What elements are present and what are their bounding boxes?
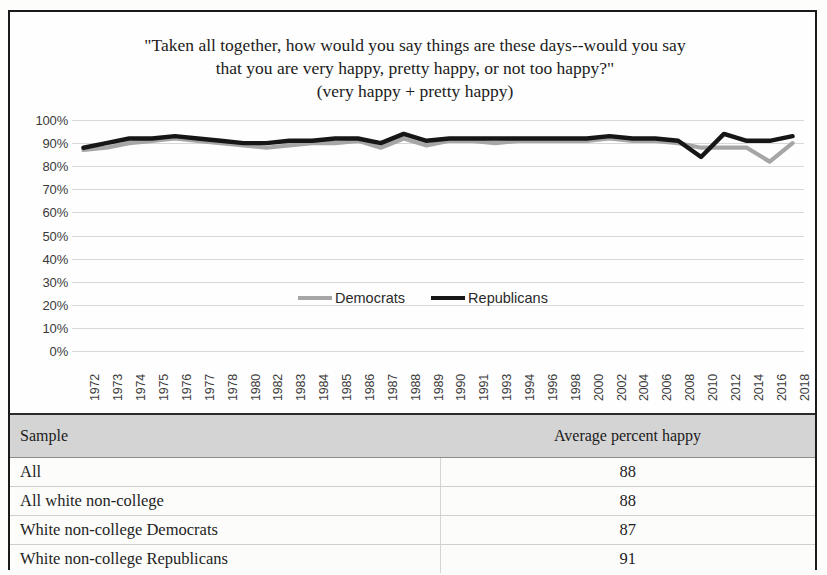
chart-title-line-3: (very happy + pretty happy) [70,80,760,103]
x-axis-tick-1993: 1993 [500,374,514,401]
y-axis-tick-10%: 10% [14,320,68,335]
table-header-row: Sample Average percent happy [10,414,815,458]
x-axis-tick-1983: 1983 [294,374,308,401]
gridline [72,351,804,352]
y-axis-tick-0%: 0% [14,344,68,359]
table-head: Sample Average percent happy [10,414,815,458]
x-axis-tick-1974: 1974 [134,374,148,401]
chart-title-line-1: "Taken all together, how would you say t… [70,34,760,57]
x-axis-tick-2010: 2010 [706,374,720,401]
content-frame: "Taken all together, how would you say t… [8,10,817,570]
legend-item-republicans: Republicans [431,290,548,306]
y-axis-tick-50%: 50% [14,228,68,243]
series-lines [72,120,804,351]
x-axis-tick-1998: 1998 [569,374,583,401]
x-axis-tick-1987: 1987 [386,374,400,401]
x-axis-tick-1985: 1985 [340,374,354,401]
democrats-line [83,138,792,161]
cell-sample: All [10,458,440,487]
x-axis-tick-1986: 1986 [363,374,377,401]
table-row: All88 [10,458,815,487]
x-axis-tick-2008: 2008 [683,374,697,401]
cell-sample: White non-college Democrats [10,516,440,545]
y-axis-tick-40%: 40% [14,251,68,266]
x-axis-tick-1975: 1975 [157,374,171,401]
x-axis-tick-1988: 1988 [409,374,423,401]
cell-sample: White non-college Republicans [10,545,440,574]
x-axis-tick-1972: 1972 [88,374,102,401]
x-axis-tick-1994: 1994 [523,374,537,401]
y-axis-tick-70%: 70% [14,182,68,197]
legend-swatch-republicans [431,296,465,300]
happiness-line-chart: "Taken all together, how would you say t… [10,12,815,413]
y-axis-tick-labels: 0%10%20%30%40%50%60%70%80%90%100% [14,120,68,360]
y-axis-tick-30%: 30% [14,274,68,289]
x-axis-tick-1976: 1976 [180,374,194,401]
table-row: White non-college Democrats87 [10,516,815,545]
cell-average-percent-happy: 88 [440,487,815,516]
x-axis-tick-1989: 1989 [432,374,446,401]
x-axis-tick-1984: 1984 [317,374,331,401]
table-body: All88All white non-college88White non-co… [10,458,815,574]
x-axis-tick-2016: 2016 [775,374,789,401]
x-axis-tick-2004: 2004 [637,374,651,401]
legend-swatch-democrats [298,296,332,300]
y-axis-tick-80%: 80% [14,159,68,174]
summary-table-block: Sample Average percent happy All88All wh… [10,413,815,568]
average-percent-happy-table: Sample Average percent happy All88All wh… [10,413,815,573]
cell-average-percent-happy: 87 [440,516,815,545]
x-axis-tick-1990: 1990 [454,374,468,401]
legend-label-democrats: Democrats [335,290,405,306]
column-header-average-percent-happy: Average percent happy [440,414,815,458]
x-axis-tick-1973: 1973 [111,374,125,401]
cell-average-percent-happy: 91 [440,545,815,574]
column-header-sample: Sample [10,414,440,458]
x-axis-tick-2002: 2002 [615,374,629,401]
x-axis-tick-labels: 1972197319741975197619771978198019821983… [72,354,804,412]
x-axis-tick-2018: 2018 [798,374,812,401]
screenshot-page: "Taken all together, how would you say t… [0,0,827,575]
chart-title-line-2: that you are very happy, pretty happy, o… [70,57,760,80]
x-axis-tick-1982: 1982 [271,374,285,401]
x-axis-tick-2012: 2012 [729,374,743,401]
table-row: White non-college Republicans91 [10,545,815,574]
x-axis-tick-1980: 1980 [249,374,263,401]
legend-label-republicans: Republicans [468,290,548,306]
x-axis-tick-2006: 2006 [660,374,674,401]
republicans-line [83,134,792,157]
legend-item-democrats: Democrats [298,290,405,306]
x-axis-tick-1978: 1978 [226,374,240,401]
chart-legend: Democrats Republicans [298,288,598,308]
y-axis-tick-60%: 60% [14,205,68,220]
x-axis-tick-1996: 1996 [546,374,560,401]
cell-sample: All white non-college [10,487,440,516]
x-axis-tick-1977: 1977 [203,374,217,401]
table-row: All white non-college88 [10,487,815,516]
y-axis-tick-90%: 90% [14,136,68,151]
y-axis-tick-100%: 100% [14,113,68,128]
x-axis-tick-2014: 2014 [752,374,766,401]
plot-wrapper: 0%10%20%30%40%50%60%70%80%90%100% 197219… [10,120,815,412]
chart-title: "Taken all together, how would you say t… [70,34,760,103]
y-axis-tick-20%: 20% [14,297,68,312]
plot-area [72,120,804,351]
cell-average-percent-happy: 88 [440,458,815,487]
x-axis-tick-2000: 2000 [592,374,606,401]
x-axis-tick-1991: 1991 [477,374,491,401]
